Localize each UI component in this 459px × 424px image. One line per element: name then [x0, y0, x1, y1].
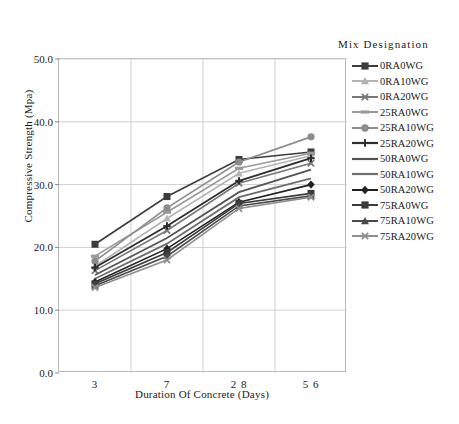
legend-label: 25RA0WG — [380, 107, 429, 118]
legend-label: 50RA10WG — [380, 169, 434, 180]
legend-label: 75RA0WG — [380, 200, 429, 211]
legend-title: Mix Designation — [338, 38, 457, 50]
legend-label: 0RA10WG — [380, 76, 429, 87]
y-tick-label: 40.0 — [3, 116, 53, 128]
y-tick-label: 50.0 — [3, 53, 53, 65]
legend-marker-icon — [352, 199, 378, 211]
legend-marker-icon — [352, 153, 378, 165]
legend-label: 75RA20WG — [380, 231, 434, 242]
y-axis-title: Compressive Strength (Mpa) — [22, 66, 34, 246]
y-tick-label: 0.0 — [3, 367, 53, 379]
legend-items: 0RA0WG0RA10WG0RA20WG25RA0WG25RA10WG25RA2… — [352, 58, 457, 244]
legend-item: 75RA20WG — [352, 229, 457, 245]
legend-item: 0RA10WG — [352, 74, 457, 90]
y-tick-label: 30.0 — [3, 179, 53, 191]
legend-marker-icon — [352, 184, 378, 196]
x-tick-label: 7 — [164, 378, 171, 390]
legend-marker-icon — [352, 137, 378, 149]
legend-marker-icon — [352, 230, 378, 242]
legend-marker-icon — [352, 60, 378, 72]
legend-marker-icon — [352, 106, 378, 118]
legend-item: 25RA10WG — [352, 120, 457, 136]
legend-item: 50RA0WG — [352, 151, 457, 167]
legend-label: 25RA20WG — [380, 138, 434, 149]
legend-marker-icon — [352, 75, 378, 87]
legend-item: 0RA0WG — [352, 58, 457, 74]
legend: Mix Designation 0RA0WG0RA10WG0RA20WG25RA… — [352, 38, 457, 244]
plot-area: 0.010.020.030.040.050.0372 85 6 — [58, 58, 346, 372]
x-tick-label: 5 6 — [303, 378, 320, 390]
legend-marker-icon — [352, 91, 378, 103]
legend-item: 0RA20WG — [352, 89, 457, 105]
legend-label: 50RA0WG — [380, 153, 429, 164]
plot-svg — [59, 59, 347, 373]
legend-label: 25RA10WG — [380, 122, 434, 133]
legend-item: 75RA0WG — [352, 198, 457, 214]
legend-item: 25RA20WG — [352, 136, 457, 152]
legend-label: 50RA20WG — [380, 184, 434, 195]
legend-item: 50RA20WG — [352, 182, 457, 198]
legend-item: 75RA10WG — [352, 213, 457, 229]
legend-marker-icon — [352, 215, 378, 227]
legend-item: 25RA0WG — [352, 105, 457, 121]
legend-label: 0RA20WG — [380, 91, 429, 102]
chart-figure: Compressive Strength (Mpa) Duration Of C… — [0, 0, 459, 424]
legend-label: 75RA10WG — [380, 215, 434, 226]
x-tick-label: 2 8 — [231, 378, 248, 390]
y-tick-label: 20.0 — [3, 241, 53, 253]
legend-marker-icon — [352, 122, 378, 134]
x-tick-label: 3 — [92, 378, 99, 390]
legend-label: 0RA0WG — [380, 60, 423, 71]
legend-item: 50RA10WG — [352, 167, 457, 183]
legend-marker-icon — [352, 168, 378, 180]
y-tick-label: 10.0 — [3, 304, 53, 316]
